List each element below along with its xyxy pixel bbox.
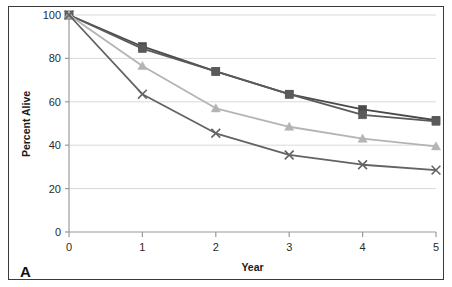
series-1-line <box>69 15 436 120</box>
series-2-marker-3 <box>285 90 293 98</box>
y-tick-label-100: 100 <box>43 9 61 21</box>
series-3-line <box>69 15 436 146</box>
y-tick-label-40: 40 <box>49 139 61 151</box>
y-tick-label-80: 80 <box>49 52 61 64</box>
x-tick-label-1: 1 <box>139 241 145 253</box>
panel-letter-label: A <box>20 263 31 280</box>
y-tick-label-20: 20 <box>49 183 61 195</box>
y-tick-labels: 020406080100 <box>43 9 61 238</box>
figure-panel: 020406080100 012345 Percent Alive Year A <box>0 0 452 287</box>
series-3-marker-2 <box>211 104 220 112</box>
series-2-marker-4 <box>359 111 367 119</box>
series-2 <box>65 11 440 125</box>
y-tick-label-0: 0 <box>55 226 61 238</box>
x-tick-label-5: 5 <box>433 241 439 253</box>
x-tick-label-4: 4 <box>360 241 366 253</box>
y-tick-label-60: 60 <box>49 96 61 108</box>
x-tick-labels: 012345 <box>66 241 439 253</box>
series-1 <box>65 11 440 124</box>
x-tick-label-0: 0 <box>66 241 72 253</box>
line-chart: 020406080100 012345 Percent Alive Year A <box>0 0 452 287</box>
series-2-marker-1 <box>138 45 146 53</box>
chart-plot-area: 020406080100 012345 Percent Alive Year A <box>0 0 452 287</box>
series-4-marker-1 <box>138 90 147 99</box>
series-3 <box>64 10 440 149</box>
series-2-marker-5 <box>432 117 440 125</box>
series-4 <box>65 11 441 175</box>
axis-lines <box>69 15 436 232</box>
series-2-line <box>69 15 436 121</box>
series-3-marker-1 <box>138 61 147 69</box>
x-axis-title: Year <box>241 261 263 273</box>
x-tick-label-3: 3 <box>286 241 292 253</box>
series-2-marker-2 <box>212 67 220 75</box>
y-axis-title: Percent Alive <box>20 91 32 157</box>
x-tick-label-2: 2 <box>213 241 219 253</box>
tick-marks <box>65 15 436 237</box>
data-series-group <box>64 10 440 174</box>
